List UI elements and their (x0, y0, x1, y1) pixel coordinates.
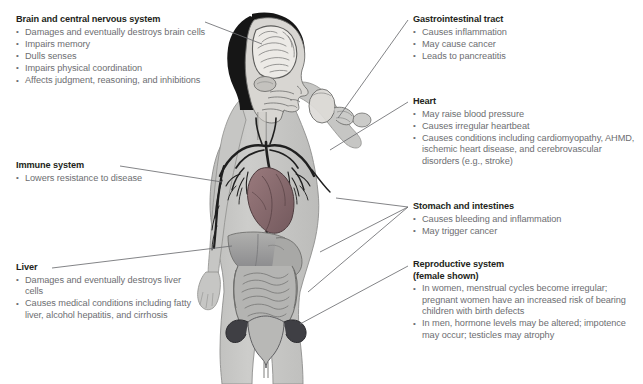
callout-reproductive-system: Reproductive system (female shown) In wo… (413, 259, 641, 342)
list-item: May raise blood pressure (413, 109, 638, 121)
callout-liver-heading: Liver (16, 262, 196, 274)
leader-line-gastrointestinal (338, 20, 408, 118)
leader-line-intestines (308, 207, 408, 292)
drinking-glass (309, 89, 371, 127)
list-item: Leads to pancreatitis (413, 51, 638, 63)
callout-immune-bullets: Lowers resistance to disease (16, 173, 166, 185)
list-item: Causes bleeding and inflammation (413, 214, 638, 226)
list-item: Damages and eventually destroys liver ce… (16, 275, 196, 298)
list-item: May trigger cancer (413, 226, 638, 238)
list-item: Impairs memory (16, 39, 216, 51)
callout-gastrointestinal-bullets: Causes inflammation May cause cancer Lea… (413, 27, 638, 63)
list-item: May cause cancer (413, 39, 638, 51)
list-item: Dulls senses (16, 51, 216, 63)
callout-immune-heading: Immune system (16, 160, 166, 172)
list-item: Causes medical conditions including fatt… (16, 298, 196, 321)
list-item: In men, hormone levels may be altered; i… (413, 318, 641, 341)
leader-line-stomach (336, 198, 408, 207)
callout-liver-bullets: Damages and eventually destroys liver ce… (16, 275, 196, 322)
callout-reproductive-subheading: (female shown) (413, 271, 641, 283)
callout-brain: Brain and central nervous system Damages… (16, 14, 216, 87)
callout-stomach-and-intestines: Stomach and intestines Causes bleeding a… (413, 201, 638, 238)
callout-reproductive-bullets: In women, menstrual cycles become irregu… (413, 283, 641, 341)
callout-liver: Liver Damages and eventually destroys li… (16, 262, 196, 322)
list-item: In women, menstrual cycles become irregu… (413, 283, 641, 318)
callout-brain-heading: Brain and central nervous system (16, 14, 216, 26)
callout-gastrointestinal-tract: Gastrointestinal tract Causes inflammati… (413, 14, 638, 63)
alcohol-effects-diagram: Brain and central nervous system Damages… (0, 0, 643, 384)
list-item: Lowers resistance to disease (16, 173, 166, 185)
list-item: Causes conditions including cardiomyopat… (413, 133, 638, 168)
callout-brain-bullets: Damages and eventually destroys brain ce… (16, 27, 216, 87)
callout-gastrointestinal-heading: Gastrointestinal tract (413, 14, 638, 26)
callout-stomach-heading: Stomach and intestines (413, 201, 638, 213)
list-item: Impairs physical coordination (16, 63, 216, 75)
list-item: Damages and eventually destroys brain ce… (16, 27, 216, 39)
list-item: Affects judgment, reasoning, and inhibit… (16, 75, 216, 87)
list-item: Causes irregular heartbeat (413, 121, 638, 133)
callout-heart-heading: Heart (413, 96, 638, 108)
callout-reproductive-heading: Reproductive system (413, 259, 641, 271)
callout-stomach-bullets: Causes bleeding and inflammation May tri… (413, 214, 638, 238)
list-item: Causes inflammation (413, 27, 638, 39)
leader-line-stomach-2 (320, 207, 408, 252)
callout-immune-system: Immune system Lowers resistance to disea… (16, 160, 166, 185)
callout-heart: Heart May raise blood pressure Causes ir… (413, 96, 638, 168)
callout-heart-bullets: May raise blood pressure Causes irregula… (413, 109, 638, 168)
leader-line-reproductive (300, 266, 408, 324)
